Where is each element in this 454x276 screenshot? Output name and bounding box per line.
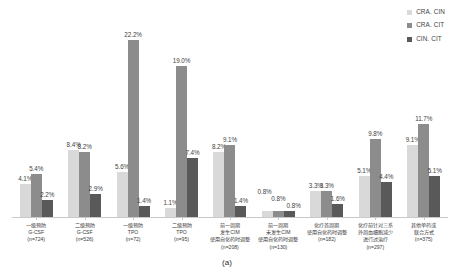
x-axis-label-count: (n=526) bbox=[61, 236, 107, 243]
figure-panel: CRA. CINCRA. CITCIN. CIT 4.1%5.4%2.2%8.4… bbox=[0, 0, 454, 276]
x-axis-line bbox=[12, 217, 448, 218]
x-axis-label-line: 使用自化药时调整 bbox=[255, 236, 301, 243]
bar-value-label: 1.4% bbox=[234, 197, 248, 204]
x-axis-label-line: TPO bbox=[158, 229, 204, 236]
legend-swatch-icon bbox=[407, 10, 412, 15]
bar-slot: 9.8% bbox=[370, 26, 381, 217]
bar-value-label: 1.4% bbox=[137, 197, 151, 204]
legend-item[interactable]: CRA. CIN bbox=[407, 9, 445, 15]
bar-group: 3.3%3.3%1.6% bbox=[303, 26, 351, 217]
bar-group-bars: 0.8%0.8%0.8% bbox=[262, 26, 295, 217]
bar-group: 9.1%11.7%5.1% bbox=[400, 26, 448, 217]
bar-slot: 0.8% bbox=[273, 26, 284, 217]
x-axis-label: 二级预防G-CSF(n=526) bbox=[60, 220, 108, 256]
x-axis-label-count: (n=95) bbox=[158, 236, 204, 243]
bar-groups: 4.1%5.4%2.2%8.4%8.2%2.9%5.6%22.2%1.4%1.1… bbox=[12, 26, 448, 217]
x-axis-label-line: 其他单药或 bbox=[401, 222, 447, 229]
bar[interactable] bbox=[381, 182, 392, 217]
bar-slot: 4.4% bbox=[381, 26, 392, 217]
x-axis-label-line: 使用自化药时调整 bbox=[304, 229, 350, 236]
bar-slot: 8.4% bbox=[68, 26, 79, 217]
bar-group-bars: 8.2%9.1%1.4% bbox=[213, 26, 246, 217]
x-axis-label-line: 使用自化药时调整 bbox=[207, 236, 253, 243]
bar[interactable] bbox=[359, 176, 370, 217]
x-axis-label-line: 前一周期 bbox=[207, 222, 253, 229]
bar-slot: 0.8% bbox=[262, 26, 273, 217]
x-axis-label: 二级预防TPO(n=95) bbox=[157, 220, 205, 256]
bar-slot: 2.9% bbox=[90, 26, 101, 217]
bar-group-bars: 9.1%11.7%5.1% bbox=[407, 26, 440, 217]
bar[interactable] bbox=[128, 40, 139, 217]
bar-group: 4.1%5.4%2.2% bbox=[12, 26, 60, 217]
x-axis-label-line: 二级预防 bbox=[158, 222, 204, 229]
legend-item-label: CRA. CIN bbox=[416, 9, 445, 15]
x-axis-label-count: (n=297) bbox=[352, 244, 398, 251]
bar-group: 0.8%0.8%0.8% bbox=[254, 26, 302, 217]
bar-slot: 22.2% bbox=[128, 26, 139, 217]
bar-value-label: 0.8% bbox=[257, 188, 271, 195]
x-axis-label: 前一周期未发生CIM使用自化药时调整(n=130) bbox=[254, 220, 302, 256]
bar[interactable] bbox=[187, 158, 198, 217]
x-axis-label-line: 化疗前针对三系 bbox=[352, 222, 398, 229]
bar[interactable] bbox=[407, 145, 418, 217]
x-axis-label-count: (n=72) bbox=[110, 236, 156, 243]
bar[interactable] bbox=[332, 204, 343, 217]
x-axis-label-line: 二级预防 bbox=[61, 222, 107, 229]
bar[interactable] bbox=[117, 172, 128, 217]
bar-group: 1.1%19.0%7.4% bbox=[157, 26, 205, 217]
x-axis-label-line: G-CSF bbox=[61, 229, 107, 236]
x-axis-label-count: (n=208) bbox=[207, 244, 253, 251]
bar[interactable] bbox=[224, 145, 235, 217]
bar[interactable] bbox=[213, 152, 224, 217]
bar-slot: 5.1% bbox=[429, 26, 440, 217]
bar-slot: 0.8% bbox=[284, 26, 295, 217]
bar-group-bars: 1.1%19.0%7.4% bbox=[165, 26, 198, 217]
bar-value-label: 2.9% bbox=[89, 185, 103, 192]
bar-group-bars: 3.3%3.3%1.6% bbox=[310, 26, 343, 217]
bar-group-bars: 8.4%8.2%2.9% bbox=[68, 26, 101, 217]
bar-group-bars: 5.1%9.8%4.4% bbox=[359, 26, 392, 217]
figure-caption: (a) bbox=[0, 258, 454, 267]
bar-slot: 5.4% bbox=[31, 26, 42, 217]
bar-group-bars: 5.6%22.2%1.4% bbox=[117, 26, 150, 217]
x-axis-label-line: 一级预防 bbox=[13, 222, 59, 229]
x-axis-label-line: 化疗首周期 bbox=[304, 222, 350, 229]
bar-group: 8.2%9.1%1.4% bbox=[206, 26, 254, 217]
bar[interactable] bbox=[176, 66, 187, 217]
x-axis-label-line: TPO bbox=[110, 229, 156, 236]
x-axis-label-line: 发生CIM bbox=[207, 229, 253, 236]
x-axis-label: 其他单药或联合方式(n=375) bbox=[400, 220, 448, 256]
bar-slot: 5.1% bbox=[359, 26, 370, 217]
bar-slot: 2.2% bbox=[42, 26, 53, 217]
bar-group: 5.6%22.2%1.4% bbox=[109, 26, 157, 217]
bar-slot: 1.1% bbox=[165, 26, 176, 217]
bar-slot: 19.0% bbox=[176, 26, 187, 217]
x-axis-label-line: G-CSF bbox=[13, 229, 59, 236]
bar-slot: 8.2% bbox=[213, 26, 224, 217]
bar-slot: 1.4% bbox=[139, 26, 150, 217]
bar[interactable] bbox=[235, 206, 246, 217]
bar[interactable] bbox=[165, 208, 176, 217]
bar[interactable] bbox=[42, 200, 53, 218]
bar-group: 8.4%8.2%2.9% bbox=[60, 26, 108, 217]
bar-slot: 3.3% bbox=[321, 26, 332, 217]
bar[interactable] bbox=[20, 184, 31, 217]
x-axis-label-count: (n=375) bbox=[401, 236, 447, 243]
bar-group-bars: 4.1%5.4%2.2% bbox=[20, 26, 53, 217]
x-axis-label-line: 一级预防 bbox=[110, 222, 156, 229]
x-axis-label-line: 前一周期 bbox=[255, 222, 301, 229]
bar[interactable] bbox=[90, 194, 101, 217]
bar[interactable] bbox=[68, 150, 79, 217]
bar[interactable] bbox=[310, 191, 321, 217]
bar-value-label: 0.8% bbox=[287, 202, 301, 209]
x-axis-label: 前一周期发生CIM使用自化药时调整(n=208) bbox=[206, 220, 254, 256]
x-axis-labels: 一级预防G-CSF(n=724)二级预防G-CSF(n=526)一级预防TPO(… bbox=[12, 220, 448, 256]
bar[interactable] bbox=[429, 176, 440, 217]
bar-slot: 7.4% bbox=[187, 26, 198, 217]
bar-slot: 1.4% bbox=[235, 26, 246, 217]
bar-slot: 4.1% bbox=[20, 26, 31, 217]
bar-value-label: 1.6% bbox=[331, 195, 345, 202]
bar[interactable] bbox=[139, 206, 150, 217]
x-axis-label-line: 未发生CIM bbox=[255, 229, 301, 236]
x-axis-label-count: (n=182) bbox=[304, 236, 350, 243]
